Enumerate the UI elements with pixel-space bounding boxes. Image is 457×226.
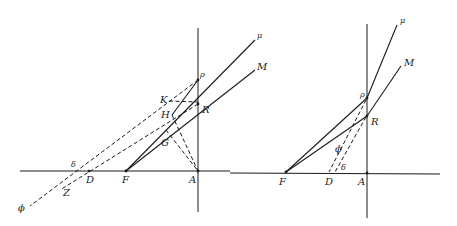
right-ray-rho-mu xyxy=(367,25,397,98)
right-ray-r-m xyxy=(367,66,401,116)
left-label-m: M xyxy=(256,61,268,72)
left-point-d xyxy=(88,170,90,172)
right-label-r: R xyxy=(370,116,379,127)
left-label-g: G xyxy=(161,137,169,148)
left-label-mu: μ xyxy=(257,31,262,40)
left-label-rho: ρ xyxy=(199,70,205,79)
left-label-h: H xyxy=(160,109,170,120)
left-label-r: R xyxy=(201,104,210,115)
right-horizontal-axis xyxy=(230,173,440,174)
left-point-rho xyxy=(197,79,200,82)
right-label-d: D xyxy=(324,176,333,187)
right-point-a xyxy=(366,172,369,175)
left-point-a xyxy=(197,170,200,173)
right-segment-f-rho xyxy=(286,98,367,172)
right-label-phi: ϕ xyxy=(335,143,342,154)
left-ray-f-rho-mu xyxy=(126,40,255,171)
left-label-z: Z xyxy=(62,187,71,198)
left-label-k: K xyxy=(159,94,168,105)
geometry-diagram: μ M ρ K R H G δ D F A Z ϕ μ M ρ R xyxy=(0,0,457,226)
left-figure: μ M ρ K R H G δ D F A Z ϕ xyxy=(18,28,268,213)
left-point-r xyxy=(197,103,200,106)
left-label-a: A xyxy=(188,174,196,185)
left-label-phi: ϕ xyxy=(18,202,25,213)
left-label-f: F xyxy=(121,174,130,185)
left-label-delta: δ xyxy=(71,160,76,169)
right-label-delta: δ xyxy=(341,163,346,172)
right-label-a: A xyxy=(357,176,365,187)
left-label-d: D xyxy=(85,174,94,185)
right-label-m: M xyxy=(403,57,415,68)
right-label-mu: μ xyxy=(400,16,405,25)
right-point-f xyxy=(285,171,288,174)
right-label-rho: ρ xyxy=(359,90,365,99)
left-dashed-r-z xyxy=(60,104,198,190)
right-segment-f-r xyxy=(286,116,367,172)
right-label-f: F xyxy=(278,176,287,187)
right-point-rho xyxy=(366,97,369,100)
left-segment-h-rho xyxy=(172,80,198,115)
right-dashed-rho-d xyxy=(329,100,366,172)
right-point-r xyxy=(366,115,369,118)
right-figure: μ M ρ R ϕ δ F D A xyxy=(230,16,440,218)
left-dashed-rho-phi xyxy=(30,80,198,206)
left-point-f xyxy=(125,170,128,173)
